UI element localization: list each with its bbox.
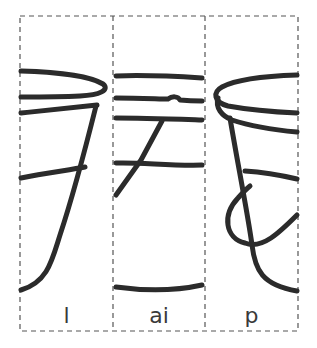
- puzzle-piece-3: p: [205, 16, 298, 331]
- worksheet: l ai p: [0, 0, 317, 348]
- puzzle-piece-1: l: [20, 16, 113, 331]
- letter-label: p: [205, 303, 298, 329]
- puzzle-piece-2: ai: [113, 16, 205, 331]
- letter-label: l: [20, 303, 113, 329]
- letter-label: ai: [113, 303, 205, 329]
